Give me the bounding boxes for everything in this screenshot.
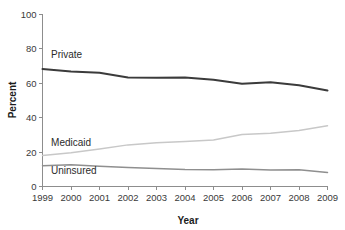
y-tick-label: 40 (26, 112, 37, 123)
x-tick-label: 2001 (89, 192, 110, 203)
x-tick-label: 1999 (32, 192, 53, 203)
x-axis-ticks (43, 187, 328, 191)
chart-canvas: 020406080100 199920002001200220032004200… (0, 0, 345, 230)
y-tick-label: 0 (31, 181, 36, 192)
x-tick-label: 2003 (146, 192, 167, 203)
series-label-uninsured: Uninsured (51, 165, 97, 176)
x-axis-title: Year (177, 215, 198, 226)
y-axis-ticks (39, 15, 43, 187)
y-tick-label: 100 (21, 9, 37, 20)
x-tick-label: 2005 (203, 192, 224, 203)
x-tick-label: 2009 (317, 192, 338, 203)
axis-spines (43, 15, 328, 187)
x-tick-label: 2004 (174, 192, 195, 203)
x-tick-label: 2000 (60, 192, 81, 203)
line-chart-figure: 020406080100 199920002001200220032004200… (0, 0, 345, 230)
x-tick-label: 2007 (260, 192, 281, 203)
y-tick-label: 60 (26, 78, 37, 89)
x-axis-tick-labels: 1999200020012002200320042005200620072008… (32, 192, 338, 203)
x-tick-label: 2008 (288, 192, 309, 203)
y-axis-tick-labels: 020406080100 (21, 9, 37, 192)
x-tick-label: 2006 (231, 192, 252, 203)
series-label-medicaid: Medicaid (51, 137, 91, 148)
series-lines-group (43, 69, 328, 172)
y-tick-label: 20 (26, 147, 37, 158)
y-axis-title: Percent (7, 81, 18, 118)
y-tick-label: 80 (26, 43, 37, 54)
series-label-private: Private (51, 49, 83, 60)
x-tick-label: 2002 (117, 192, 138, 203)
series-inline-labels: PrivateMedicaidUninsured (51, 49, 97, 176)
series-line-private (43, 69, 328, 91)
